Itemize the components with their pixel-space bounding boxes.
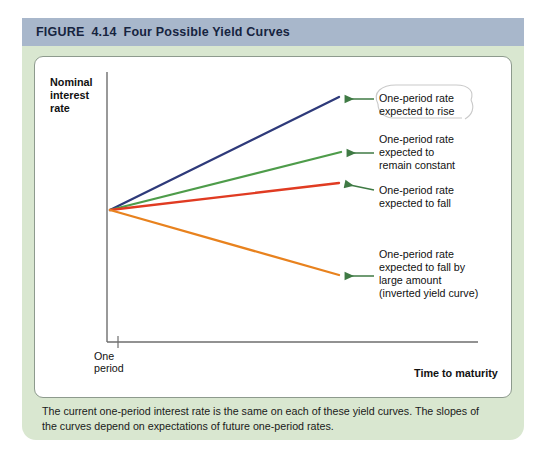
y-axis-label: Nominal interest rate [50, 76, 93, 114]
annotation-constant: One-period rate expected to remain const… [379, 133, 455, 172]
figure-caption: The current one-period interest rate is … [42, 404, 492, 434]
annotation-falling: One-period rate expected to fall [379, 184, 454, 210]
figure-label: FIGURE [36, 25, 84, 39]
figure-title: FIGURE4.14Four Possible Yield Curves [36, 25, 290, 39]
annotation-rising: One-period rate expected to rise [379, 92, 454, 118]
figure-title-bar: FIGURE4.14Four Possible Yield Curves [22, 18, 524, 46]
x-axis-label: Time to maturity [414, 367, 498, 380]
figure-number: 4.14 [91, 25, 116, 39]
figure-title-text: Four Possible Yield Curves [124, 25, 290, 39]
x-axis-origin-label: One period [94, 350, 124, 375]
figure-root: FIGURE4.14Four Possible Yield Curves [0, 0, 540, 454]
annotation-inverted: One-period rate expected to fall by larg… [379, 248, 478, 300]
